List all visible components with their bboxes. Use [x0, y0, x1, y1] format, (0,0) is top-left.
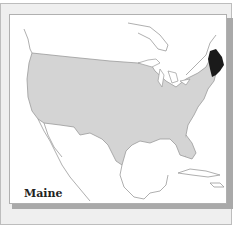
locator-map: [10, 15, 227, 204]
map-label: Maine: [24, 187, 62, 200]
cuba: [178, 169, 220, 177]
map-frame: Maine: [9, 14, 227, 204]
map-card: Maine: [0, 3, 232, 225]
